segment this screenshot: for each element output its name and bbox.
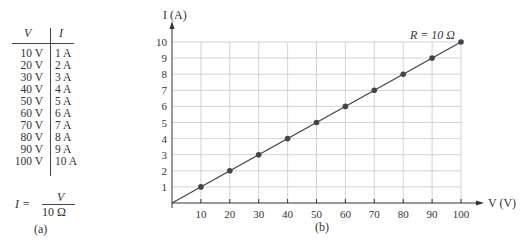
data-point-marker [198,184,204,190]
data-point-marker [227,168,233,174]
x-axis-arrow-icon [476,201,484,206]
data-point-marker [343,104,349,110]
iv-graph: 10203040506070809010012345678910I (A)V (… [0,0,525,247]
x-tick-label: 10 [195,208,207,220]
data-point-marker [285,136,291,142]
data-point-marker [458,39,464,45]
y-tick-label: 6 [162,100,168,112]
x-tick-label: 60 [340,208,352,220]
resistance-annotation: R = 10 Ω [409,28,455,42]
y-axis-label: I (A) [163,8,187,22]
y-tick-label: 9 [162,52,168,64]
y-tick-label: 7 [162,84,168,96]
y-tick-label: 2 [162,165,168,177]
y-tick-label: 8 [162,68,168,80]
data-point-marker [429,55,435,61]
y-tick-label: 1 [162,181,168,193]
x-tick-label: 80 [398,208,410,220]
x-tick-label: 70 [369,208,381,220]
data-point-marker [314,120,320,126]
x-tick-label: 90 [427,208,439,220]
data-point-marker [372,88,378,94]
y-tick-label: 10 [156,36,168,48]
data-point-marker [256,152,262,158]
y-tick-label: 3 [162,149,168,161]
x-axis-label: V (V) [488,196,516,210]
y-tick-label: 5 [162,117,168,129]
panel-label-b: (b) [315,220,329,234]
y-tick-label: 4 [162,133,168,145]
data-point-marker [400,71,406,77]
y-axis-arrow-icon [170,21,175,29]
x-tick-label: 100 [453,208,470,220]
x-tick-label: 20 [224,208,236,220]
x-tick-label: 50 [311,208,323,220]
x-tick-label: 30 [253,208,265,220]
x-tick-label: 40 [282,208,294,220]
